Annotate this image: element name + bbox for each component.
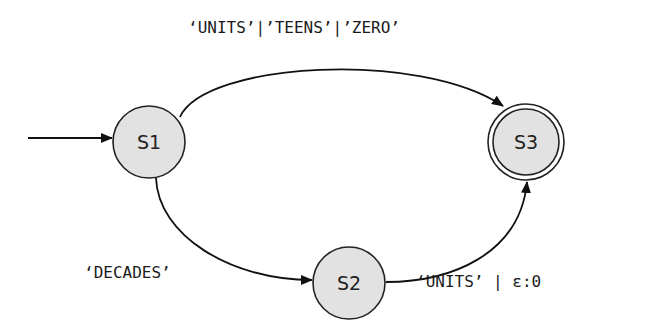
transition-label-s1-s3: ‘UNITS’|’TEENS’|’ZERO’	[188, 18, 400, 37]
transition-s1-s3	[180, 69, 503, 117]
state-s2[interactable]: S2	[313, 247, 385, 319]
state-label: S1	[137, 131, 161, 153]
state-label: S2	[337, 272, 361, 294]
state-label: S3	[514, 131, 538, 153]
state-s1[interactable]: S1	[113, 106, 185, 178]
transition-label-s1-s2: ‘DECADES’	[84, 263, 171, 282]
state-s3-accepting[interactable]: S3	[488, 104, 564, 180]
transition-label-s2-s3: ‘UNITS’ | ε:0	[416, 272, 541, 291]
transition-s2-s3	[386, 182, 527, 282]
state-diagram: S1 S2 S3 ‘UNITS’|’TEENS’|’ZERO’ ‘DECADES…	[0, 0, 654, 332]
transition-s1-s2	[156, 178, 312, 280]
